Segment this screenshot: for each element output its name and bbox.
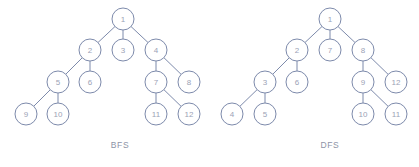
tree-edge (305, 27, 322, 43)
figure-canvas: 123456789101112127836912451011 BFSDFS (0, 0, 419, 167)
node-label: 4 (154, 46, 159, 55)
tree-node[interactable]: 3 (112, 39, 134, 61)
node-label: 2 (295, 46, 300, 55)
tree-node[interactable]: 4 (221, 103, 243, 125)
node-label: 9 (361, 78, 366, 87)
node-label: 2 (88, 46, 93, 55)
captions-layer: BFSDFS (111, 140, 340, 150)
tree-node[interactable]: 5 (47, 71, 69, 93)
edge-group-bfs (34, 27, 181, 107)
tree-node[interactable]: 3 (254, 71, 276, 93)
tree-node[interactable]: 1 (112, 8, 134, 30)
tree-node[interactable]: 9 (352, 71, 374, 93)
node-label: 8 (361, 46, 366, 55)
node-label: 7 (154, 78, 159, 87)
node-label: 8 (187, 78, 192, 87)
tree-node[interactable]: 8 (352, 39, 374, 61)
node-label: 7 (328, 46, 333, 55)
diagram-caption-bfs: BFS (111, 140, 129, 150)
tree-node[interactable]: 6 (79, 71, 101, 93)
tree-node[interactable]: 10 (47, 103, 69, 125)
tree-edge (338, 27, 355, 43)
tree-edge (371, 58, 388, 75)
tree-node[interactable]: 1 (319, 8, 341, 30)
tree-edge (98, 27, 115, 43)
node-label: 4 (230, 110, 235, 119)
tree-edge (240, 90, 257, 107)
tree-node[interactable]: 7 (319, 39, 341, 61)
tree-node[interactable]: 2 (286, 39, 308, 61)
node-label: 1 (121, 15, 126, 24)
tree-node[interactable]: 12 (385, 71, 407, 93)
node-label: 6 (295, 78, 300, 87)
tree-edge (131, 27, 148, 43)
tree-node[interactable]: 11 (385, 103, 407, 125)
tree-diagram-svg: 123456789101112127836912451011 BFSDFS (0, 0, 419, 167)
tree-edge (371, 90, 388, 107)
edges-layer (34, 27, 388, 107)
tree-edge (273, 58, 289, 74)
node-label: 5 (263, 110, 268, 119)
node-label: 10 (54, 110, 63, 119)
node-group-bfs: 123456789101112 (15, 8, 200, 125)
tree-node[interactable]: 8 (178, 71, 200, 93)
tree-node[interactable]: 12 (178, 103, 200, 125)
node-label: 11 (392, 110, 401, 119)
node-label: 3 (263, 78, 268, 87)
node-label: 10 (359, 110, 368, 119)
tree-node[interactable]: 6 (286, 71, 308, 93)
node-label: 12 (392, 78, 401, 87)
tree-node[interactable]: 9 (15, 103, 37, 125)
tree-edge (34, 90, 50, 106)
node-label: 3 (121, 46, 126, 55)
tree-node[interactable]: 5 (254, 103, 276, 125)
edge-group-dfs (240, 27, 388, 107)
tree-edge (164, 58, 181, 75)
tree-node[interactable]: 10 (352, 103, 374, 125)
node-label: 6 (88, 78, 93, 87)
tree-edge (66, 58, 82, 74)
node-label: 11 (152, 110, 161, 119)
tree-node[interactable]: 7 (145, 71, 167, 93)
node-label: 5 (56, 78, 61, 87)
tree-node[interactable]: 4 (145, 39, 167, 61)
diagram-caption-dfs: DFS (321, 140, 340, 150)
node-label: 9 (24, 110, 29, 119)
tree-node[interactable]: 2 (79, 39, 101, 61)
node-group-dfs: 127836912451011 (221, 8, 407, 125)
node-label: 12 (185, 110, 194, 119)
tree-edge (164, 90, 181, 107)
tree-node[interactable]: 11 (145, 103, 167, 125)
node-label: 1 (328, 15, 333, 24)
